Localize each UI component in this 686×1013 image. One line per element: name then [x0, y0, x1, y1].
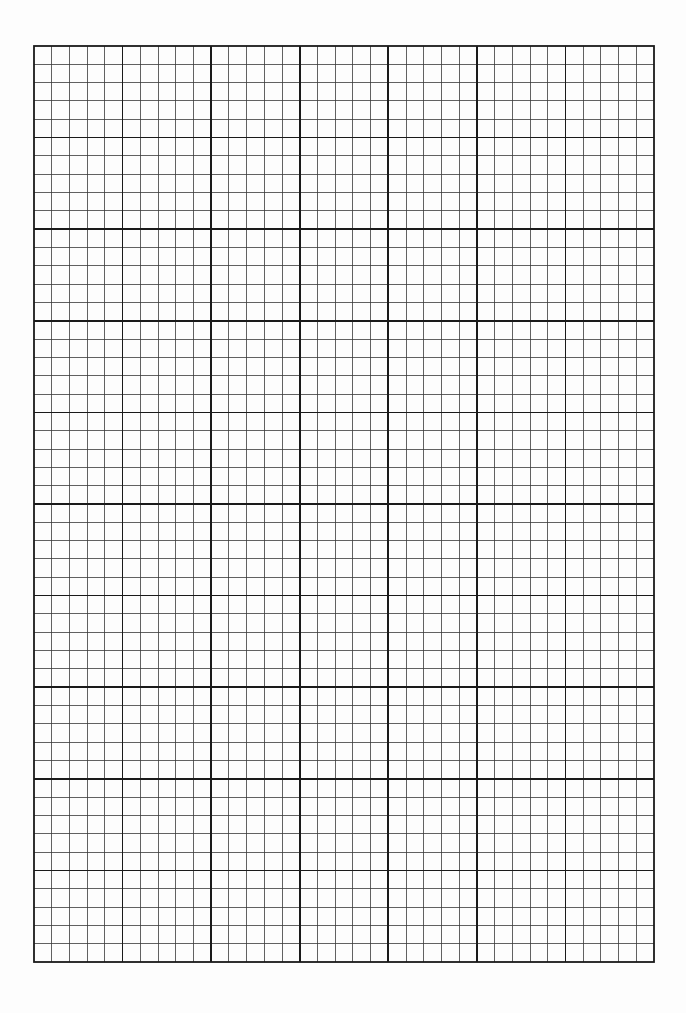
graph-paper-sheet: [0, 0, 686, 1013]
graph-grid: [33, 45, 655, 963]
